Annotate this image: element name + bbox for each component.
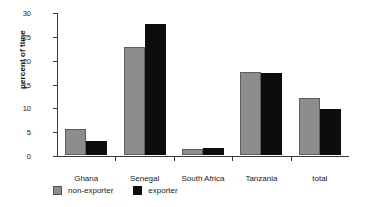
bar-tanzania-non-exporter xyxy=(240,72,261,155)
black-square-icon xyxy=(133,186,142,195)
bar-total-non-exporter xyxy=(299,98,320,155)
y-axis-tick-label: 10 xyxy=(0,104,31,113)
legend-item-non-exporter[interactable]: non-exporter xyxy=(53,186,113,195)
bar-south-africa-non-exporter xyxy=(182,149,203,155)
y-axis-tick xyxy=(53,13,58,14)
bar-chart: percent of time 051015202530 GhanaSenega… xyxy=(0,0,370,207)
bar-ghana-non-exporter xyxy=(65,129,86,155)
x-axis-line xyxy=(57,156,349,157)
x-axis-tick xyxy=(232,157,233,161)
x-axis-category-label: total xyxy=(312,174,327,183)
bar-south-africa-exporter xyxy=(203,148,224,155)
y-axis-tick xyxy=(53,156,58,157)
legend-label: exporter xyxy=(148,186,177,195)
x-axis-category-label: Senegal xyxy=(130,174,159,183)
y-axis-tick-label: 0 xyxy=(0,152,31,161)
bar-tanzania-exporter xyxy=(261,73,282,155)
legend-item-exporter[interactable]: exporter xyxy=(133,186,177,195)
x-axis-tick xyxy=(291,157,292,161)
y-axis-tick xyxy=(53,37,58,38)
y-axis-tick xyxy=(53,85,58,86)
legend: non-exporter exporter xyxy=(53,186,178,195)
bar-senegal-non-exporter xyxy=(124,47,145,155)
y-axis-tick-label: 25 xyxy=(0,32,31,41)
y-axis-tick-label: 20 xyxy=(0,56,31,65)
bar-senegal-exporter xyxy=(145,24,166,155)
y-axis-tick-label: 30 xyxy=(0,9,31,18)
y-axis-tick xyxy=(53,61,58,62)
y-axis-tick-label: 15 xyxy=(0,80,31,89)
y-axis-tick xyxy=(53,108,58,109)
bar-total-exporter xyxy=(320,109,341,155)
y-axis-tick-label: 5 xyxy=(0,128,31,137)
legend-label: non-exporter xyxy=(68,186,113,195)
x-axis-category-label: Ghana xyxy=(74,174,98,183)
bar-ghana-exporter xyxy=(86,141,107,155)
x-axis-tick xyxy=(115,157,116,161)
plot-area: 051015202530 GhanaSenegalSouth AfricaTan… xyxy=(57,13,349,156)
x-axis-tick xyxy=(174,157,175,161)
y-axis-tick xyxy=(53,132,58,133)
gray-square-icon xyxy=(53,186,62,195)
x-axis-category-label: South Africa xyxy=(181,174,224,183)
x-axis-category-label: Tanzania xyxy=(245,174,277,183)
